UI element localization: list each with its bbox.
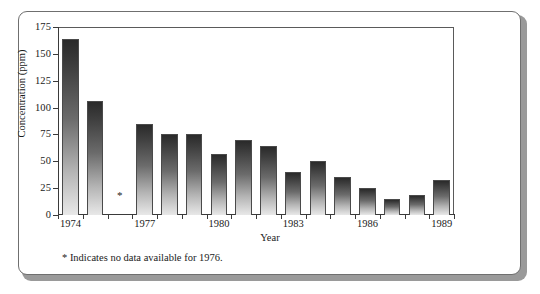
y-tick-label: 125 [3, 76, 51, 86]
bar [285, 172, 301, 215]
bar [384, 199, 400, 215]
y-tick-label: 150 [3, 49, 51, 59]
bar [136, 124, 152, 215]
x-tick-label: 1980 [196, 218, 242, 229]
y-tick-label: 0 [3, 210, 51, 220]
bar [161, 134, 177, 215]
bar [211, 154, 227, 215]
x-tick-label: 1974 [47, 218, 93, 229]
y-tick-label: 100 [3, 103, 51, 113]
bar-series: * [58, 27, 454, 215]
bar [359, 188, 375, 215]
chart-page: 0255075100125150175 Concentration (ppm) … [0, 0, 540, 294]
y-axis-title: Concentration (ppm) [16, 29, 27, 159]
bar [186, 134, 202, 215]
y-tick-label: 50 [3, 156, 51, 166]
bar [433, 180, 449, 215]
x-tick [182, 214, 183, 219]
bar [334, 177, 350, 215]
y-tick-label: 25 [3, 183, 51, 193]
x-tick [405, 214, 406, 219]
bar [310, 161, 326, 215]
x-tick-label: 1977 [122, 218, 168, 229]
x-tick-label: 1989 [419, 218, 465, 229]
y-tick-label: 75 [3, 129, 51, 139]
bar-missing-1976: * [112, 175, 128, 215]
bar [409, 195, 425, 215]
y-tick-label: 175 [3, 22, 51, 32]
x-tick [256, 214, 257, 219]
plot-wrapper: 0255075100125150175 Concentration (ppm) … [0, 0, 540, 294]
bar [260, 146, 276, 215]
x-tick-label: 1983 [270, 218, 316, 229]
x-tick-label: 1986 [344, 218, 390, 229]
x-tick [330, 214, 331, 219]
bar [87, 101, 103, 215]
x-axis-title: Year [0, 232, 540, 243]
footnote-text: * Indicates no data available for 1976. [62, 252, 223, 263]
bar [62, 39, 78, 215]
no-data-asterisk: * [112, 191, 128, 199]
bar [235, 140, 251, 215]
x-tick [108, 214, 109, 219]
